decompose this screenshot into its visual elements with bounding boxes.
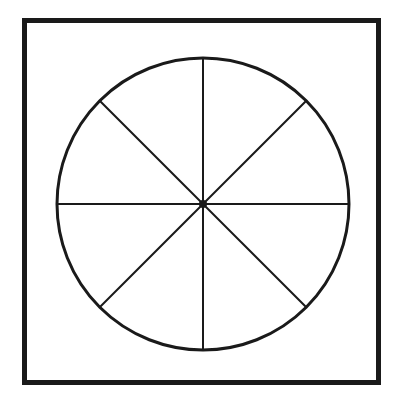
figure-canvas bbox=[0, 0, 403, 406]
center-point bbox=[199, 200, 207, 208]
circle-sectors-figure bbox=[0, 0, 403, 406]
